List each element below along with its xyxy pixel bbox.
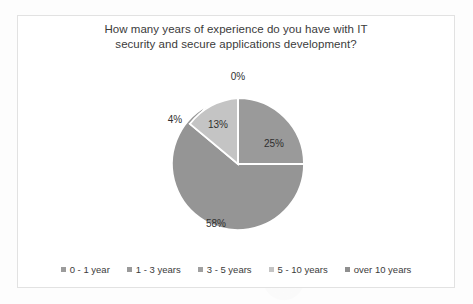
pie-label-4-percent: 4% (168, 114, 182, 125)
legend-item-label: 5 - 10 years (278, 264, 328, 275)
pie-plot-area: 0% 25% 58% 4% 13% (18, 16, 454, 287)
legend-item-over-10-years[interactable]: over 10 years (345, 264, 412, 275)
legend-item-3-5-years[interactable]: 3 - 5 years (198, 264, 252, 275)
legend-marker-icon (198, 267, 203, 272)
pie-label-0-percent: 0% (231, 71, 245, 82)
legend-item-label: 1 - 3 years (136, 264, 181, 275)
pie-label-58-percent: 58% (206, 218, 226, 229)
legend-marker-icon (345, 267, 350, 272)
legend-marker-icon (61, 267, 66, 272)
legend-item-label: 3 - 5 years (207, 264, 252, 275)
pie-chart-svg (18, 16, 456, 289)
legend-item-5-10-years[interactable]: 5 - 10 years (269, 264, 328, 275)
legend-item-0-1-year[interactable]: 0 - 1 year (61, 264, 110, 275)
legend-item-label: 0 - 1 year (70, 264, 110, 275)
chart-legend: 0 - 1 year 1 - 3 years 3 - 5 years 5 - 1… (18, 264, 454, 275)
legend-item-label: over 10 years (354, 264, 412, 275)
legend-marker-icon (269, 267, 274, 272)
legend-item-1-3-years[interactable]: 1 - 3 years (127, 264, 181, 275)
chart-frame: How many years of experience do you have… (17, 15, 455, 288)
legend-marker-icon (127, 267, 132, 272)
pie-slice-1-3-years[interactable] (238, 98, 304, 164)
pie-label-25-percent: 25% (264, 138, 284, 149)
pie-label-13-percent: 13% (208, 119, 228, 130)
